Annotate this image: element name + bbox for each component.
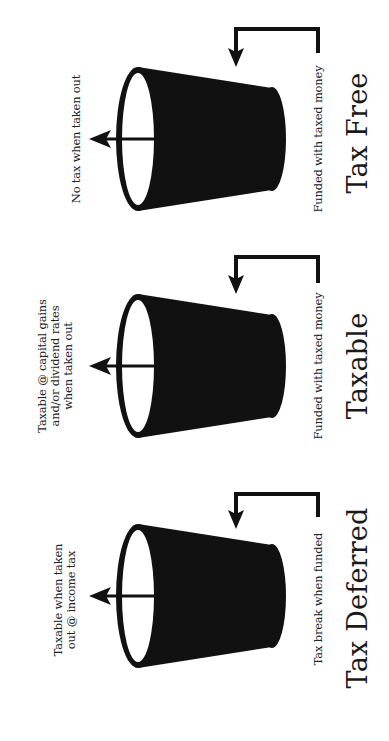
outflow-label-line: No tax when taken out [70, 75, 83, 203]
inflow-arrow-icon [228, 29, 318, 67]
bucket-taxable [89, 257, 318, 438]
inflow-arrow-icon [228, 494, 318, 529]
bucket-title-tax-deferred: Tax Deferred [343, 508, 373, 689]
outflow-label-line: Taxable when taken [52, 544, 65, 657]
inflow-arrow-icon [228, 257, 318, 294]
bucket-title-tax-free: Tax Free [343, 72, 373, 193]
inflow-label-tax-free: Funded with taxed money [312, 66, 325, 213]
outflow-label-line: and/or dividend rates [49, 299, 62, 432]
bucket-title-taxable: Taxable [343, 313, 373, 420]
outflow-label-line: when taken out [61, 299, 74, 432]
inflow-label-tax-deferred: Tax break when funded [312, 533, 325, 665]
outflow-label-taxable: Taxable @ capital gains and/or dividend … [36, 299, 75, 432]
outflow-label-tax-free: No tax when taken out [70, 75, 83, 203]
bucket-tax-deferred [89, 494, 318, 668]
bucket-tax-free [89, 29, 318, 211]
tax-buckets-diagram: No tax when taken out Funded with taxed … [0, 0, 389, 741]
outflow-label-tax-deferred: Taxable when taken out @ income tax [52, 544, 78, 657]
outflow-label-line: Taxable @ capital gains [36, 299, 49, 432]
inflow-label-taxable: Funded with taxed money [312, 293, 325, 440]
outflow-label-line: out @ income tax [65, 544, 78, 657]
